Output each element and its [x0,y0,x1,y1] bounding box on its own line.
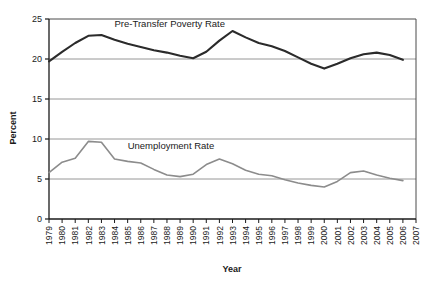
x-tick-label: 2000 [319,226,329,245]
x-tick-label: 1987 [149,226,159,245]
y-tick-label: 15 [32,94,42,104]
y-tick-label: 10 [32,134,42,144]
x-tick-label: 1998 [293,226,303,245]
x-tick-label: 1982 [84,226,94,245]
x-tick-label: 1995 [254,226,264,245]
x-tick-label: 1983 [97,226,107,245]
y-axis-title: Percent [8,111,18,144]
x-tick-label: 1988 [162,226,172,245]
x-tick-label: 1999 [306,226,316,245]
x-tick-label: 1990 [188,226,198,245]
y-tick-label: 0 [37,214,42,224]
x-tick-label: 1997 [280,226,290,245]
line-chart: 0510152025 19791980198119821983198419851… [0,0,436,281]
x-tick-label: 1981 [70,226,80,245]
y-tick-label: 25 [32,14,42,24]
x-tick-label: 1984 [110,226,120,245]
series-label-unemployment: Unemployment Rate [128,140,215,151]
x-tick-label: 2007 [411,226,421,245]
plot-background [49,19,416,219]
series-label-poverty: Pre-Transfer Poverty Rate [115,18,226,29]
x-tick-label: 2004 [372,226,382,245]
x-axis-title: Year [222,264,242,274]
x-tick-label: 2003 [359,226,369,245]
x-tick-label: 1989 [175,226,185,245]
x-tick-label: 1996 [267,226,277,245]
x-tick-label: 1985 [123,226,133,245]
x-tick-label: 1979 [44,226,54,245]
x-tick-label: 1991 [201,226,211,245]
x-tick-label: 1986 [136,226,146,245]
x-tick-label: 2006 [398,226,408,245]
x-tick-label: 2001 [333,226,343,245]
y-tick-label: 5 [37,174,42,184]
chart-container: 0510152025 19791980198119821983198419851… [0,0,436,281]
x-tick-label: 2002 [346,226,356,245]
x-tick-label: 1994 [241,226,251,245]
x-tick-label: 1993 [228,226,238,245]
x-tick-label: 2005 [385,226,395,245]
x-tick-label: 1980 [57,226,67,245]
y-axis-ticks: 0510152025 [32,14,49,224]
x-axis-tick-labels: 1979198019811982198319841985198619871988… [44,226,421,245]
x-tick-label: 1992 [215,226,225,245]
y-tick-label: 20 [32,54,42,64]
